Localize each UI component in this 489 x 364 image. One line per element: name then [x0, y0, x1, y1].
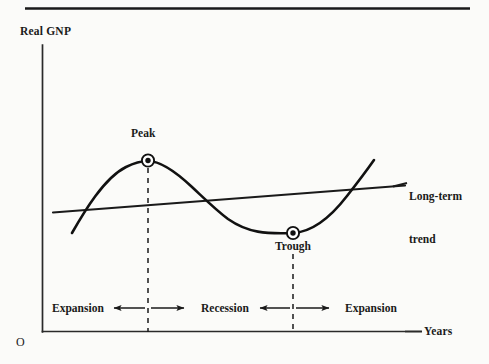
- long-term-trend-label-line2: trend: [409, 232, 462, 246]
- trough-marker: [287, 227, 299, 239]
- phase-label-expansion-first: Expansion: [52, 302, 104, 315]
- y-axis-label: Real GNP: [20, 25, 71, 38]
- x-axis-label: Years: [424, 325, 452, 338]
- peak-label: Peak: [131, 127, 155, 140]
- long-term-trend-label-line1: Long-term: [409, 189, 462, 203]
- peak-marker: [142, 154, 154, 166]
- phase-label-recession: Recession: [201, 302, 249, 315]
- figure-canvas: Real GNP Years O Peak Trough Long-term t…: [0, 0, 489, 364]
- business-cycle-curve: [72, 160, 374, 233]
- phase-label-expansion-second: Expansion: [345, 302, 397, 315]
- origin-label: O: [16, 336, 25, 349]
- long-term-trend-label: Long-term trend: [409, 160, 462, 275]
- trough-label: Trough: [275, 240, 311, 253]
